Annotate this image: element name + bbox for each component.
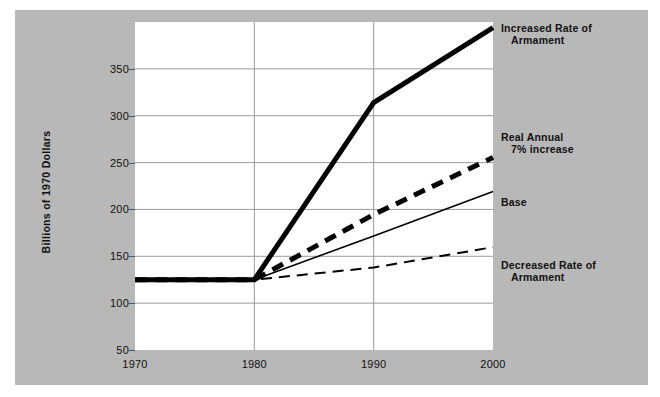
series-label-real-annual-line1: Real Annual	[501, 131, 564, 143]
series-label-increased-line1: Increased Rate of	[501, 22, 592, 34]
y-tick-0: 50	[116, 344, 129, 356]
y-tick-2: 150	[110, 250, 129, 262]
series-label-decreased-line2: Armament	[501, 271, 596, 283]
x-tick-1990: 1990	[361, 358, 386, 370]
plot-area	[135, 22, 493, 350]
series-line-real-annual-7-percent-increase	[135, 157, 493, 279]
series-label-base-line1: Base	[501, 196, 527, 208]
series-line-increased-rate-of-armament	[135, 28, 493, 280]
series-label-decreased-rate-of-armament: Decreased Rate of Armament	[501, 259, 596, 283]
series-label-increased-line2: Armament	[501, 34, 592, 46]
data-series	[135, 22, 493, 350]
series-label-base: Base	[501, 196, 527, 208]
series-label-real-annual-7-percent-increase: Real Annual 7% increase	[501, 131, 574, 155]
y-tick-mark-50	[129, 350, 135, 351]
series-label-real-annual-line2: 7% increase	[501, 143, 574, 155]
series-label-increased-rate-of-armament: Increased Rate of Armament	[501, 22, 592, 46]
series-line-decreased-rate-of-armament	[135, 247, 493, 280]
y-tick-4: 250	[110, 157, 129, 169]
x-tick-1980: 1980	[242, 358, 267, 370]
y-tick-5: 300	[110, 110, 129, 122]
x-tick-1970: 1970	[122, 358, 147, 370]
chart-figure: Billions of 1970 Dollars 50 100 150 200 …	[15, 10, 648, 385]
y-tick-6: 350	[110, 63, 129, 75]
y-tick-3: 200	[110, 203, 129, 215]
y-axis-tick-labels: 50 100 150 200 250 300 350	[73, 22, 129, 350]
y-axis-title: Billions of 1970 Dollars	[40, 112, 52, 272]
x-tick-2000: 2000	[480, 358, 505, 370]
series-label-decreased-line1: Decreased Rate of	[501, 259, 596, 271]
y-tick-1: 100	[110, 297, 129, 309]
series-line-base	[135, 191, 493, 279]
